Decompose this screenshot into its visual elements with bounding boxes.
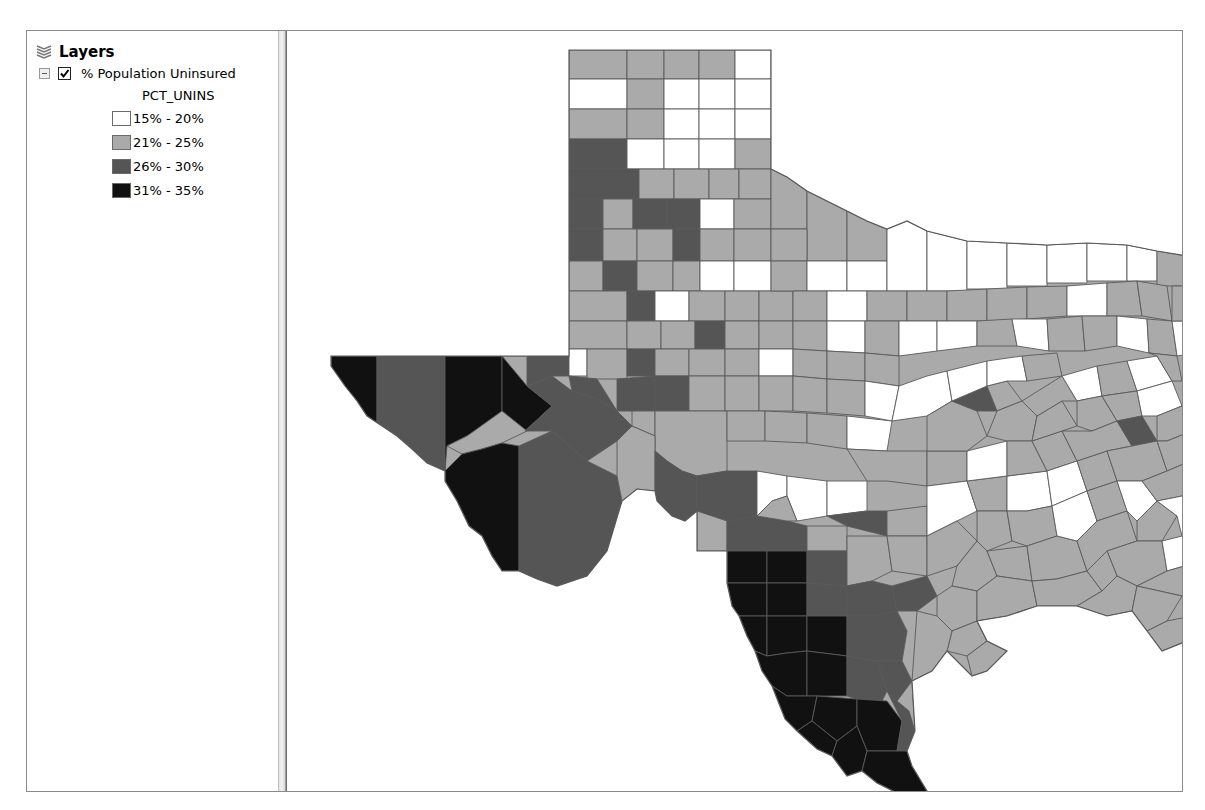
toc-splitter[interactable] bbox=[278, 31, 287, 791]
county[interactable] bbox=[1087, 243, 1127, 281]
county[interactable] bbox=[735, 109, 771, 139]
county[interactable] bbox=[655, 291, 689, 321]
layers-header[interactable]: Layers bbox=[35, 43, 115, 61]
county[interactable] bbox=[1157, 251, 1182, 286]
county[interactable] bbox=[569, 50, 627, 79]
county[interactable] bbox=[767, 583, 807, 616]
county[interactable] bbox=[664, 79, 699, 109]
county[interactable] bbox=[1022, 353, 1062, 381]
county[interactable] bbox=[899, 321, 937, 356]
county[interactable] bbox=[1107, 281, 1142, 316]
county[interactable] bbox=[689, 349, 725, 376]
county[interactable] bbox=[700, 199, 734, 229]
county[interactable] bbox=[699, 79, 735, 109]
county[interactable] bbox=[1172, 286, 1182, 321]
legend-class-3[interactable]: 26% - 30% bbox=[112, 159, 204, 174]
county[interactable] bbox=[807, 551, 847, 586]
county[interactable] bbox=[587, 349, 627, 379]
county[interactable] bbox=[627, 79, 664, 109]
county[interactable] bbox=[569, 199, 603, 229]
county[interactable] bbox=[865, 353, 899, 386]
county[interactable] bbox=[765, 411, 807, 443]
county[interactable] bbox=[695, 321, 725, 349]
legend-class-4[interactable]: 31% - 35% bbox=[112, 183, 204, 198]
county[interactable] bbox=[627, 291, 655, 321]
legend-class-2[interactable]: 21% - 25% bbox=[112, 135, 204, 150]
county[interactable] bbox=[1007, 471, 1052, 511]
county[interactable] bbox=[734, 261, 771, 291]
county[interactable] bbox=[627, 109, 664, 139]
county[interactable] bbox=[727, 411, 765, 441]
county[interactable] bbox=[725, 349, 759, 376]
county[interactable] bbox=[807, 261, 847, 291]
county[interactable] bbox=[655, 349, 689, 376]
county[interactable] bbox=[603, 229, 637, 261]
county[interactable] bbox=[827, 351, 865, 381]
county[interactable] bbox=[771, 261, 807, 291]
county[interactable] bbox=[1007, 243, 1047, 286]
county[interactable] bbox=[793, 376, 827, 413]
county[interactable] bbox=[735, 79, 771, 109]
county[interactable] bbox=[673, 229, 700, 261]
county[interactable] bbox=[734, 229, 771, 261]
county[interactable] bbox=[1082, 316, 1117, 351]
county[interactable] bbox=[862, 751, 927, 791]
county[interactable] bbox=[977, 319, 1017, 346]
county[interactable] bbox=[947, 289, 987, 321]
county[interactable] bbox=[627, 349, 655, 376]
county[interactable] bbox=[699, 109, 735, 139]
county[interactable] bbox=[377, 356, 445, 471]
county[interactable] bbox=[767, 616, 807, 656]
county[interactable] bbox=[967, 241, 1007, 289]
county[interactable] bbox=[1012, 319, 1049, 351]
collapse-icon[interactable] bbox=[39, 68, 50, 79]
county[interactable] bbox=[603, 261, 637, 291]
county[interactable] bbox=[735, 139, 771, 169]
county[interactable] bbox=[725, 291, 759, 321]
map-view[interactable] bbox=[287, 31, 1182, 791]
county[interactable] bbox=[700, 229, 734, 261]
county[interactable] bbox=[689, 291, 725, 321]
county[interactable] bbox=[1047, 243, 1087, 283]
county[interactable] bbox=[847, 261, 887, 291]
county[interactable] bbox=[673, 261, 700, 291]
county[interactable] bbox=[664, 139, 699, 169]
county[interactable] bbox=[865, 321, 899, 356]
county[interactable] bbox=[639, 169, 674, 199]
county[interactable] bbox=[664, 109, 699, 139]
county[interactable] bbox=[445, 443, 519, 571]
layer-visibility-checkbox[interactable] bbox=[58, 67, 71, 80]
county[interactable] bbox=[759, 349, 793, 376]
county[interactable] bbox=[569, 261, 603, 291]
county[interactable] bbox=[1067, 283, 1107, 316]
county[interactable] bbox=[907, 291, 947, 321]
county[interactable] bbox=[569, 291, 627, 321]
county[interactable] bbox=[887, 221, 927, 291]
county[interactable] bbox=[569, 79, 627, 109]
county[interactable] bbox=[807, 583, 847, 616]
layer-row-population-uninsured[interactable]: % Population Uninsured bbox=[39, 66, 236, 81]
county[interactable] bbox=[725, 321, 759, 349]
county[interactable] bbox=[627, 50, 664, 79]
county[interactable] bbox=[664, 50, 699, 79]
county[interactable] bbox=[1047, 316, 1085, 351]
county[interactable] bbox=[725, 376, 759, 411]
county[interactable] bbox=[603, 199, 633, 229]
county[interactable] bbox=[727, 551, 767, 583]
county[interactable] bbox=[927, 451, 967, 486]
county[interactable] bbox=[709, 169, 739, 199]
county[interactable] bbox=[887, 536, 927, 576]
county[interactable] bbox=[739, 616, 767, 656]
county[interactable] bbox=[569, 229, 603, 261]
county[interactable] bbox=[759, 321, 793, 349]
county[interactable] bbox=[739, 169, 771, 199]
county[interactable] bbox=[569, 349, 587, 376]
county[interactable] bbox=[617, 376, 655, 411]
county[interactable] bbox=[827, 321, 865, 353]
county[interactable] bbox=[793, 349, 827, 379]
county[interactable] bbox=[887, 506, 927, 536]
county[interactable] bbox=[937, 321, 977, 351]
county[interactable] bbox=[867, 291, 907, 321]
county-polygons[interactable] bbox=[331, 50, 1182, 791]
county[interactable] bbox=[807, 651, 847, 696]
